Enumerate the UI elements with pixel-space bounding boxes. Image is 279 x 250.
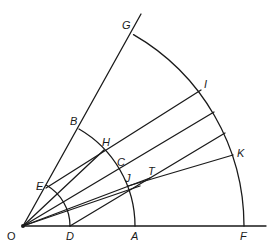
origin-point (21, 224, 25, 228)
geometry-diagram: O D A F E B G H C J T I K (0, 0, 279, 250)
arc-FG (134, 35, 245, 226)
label-T: T (148, 166, 155, 177)
label-H: H (102, 137, 110, 148)
label-A: A (131, 231, 138, 242)
diagram-canvas (0, 0, 279, 250)
label-B: B (70, 116, 77, 127)
label-G: G (122, 20, 131, 31)
label-E: E (36, 181, 43, 192)
label-K: K (237, 148, 244, 159)
label-F: F (240, 231, 247, 242)
line-OT (23, 186, 140, 226)
line-DT (70, 133, 225, 226)
label-J: J (125, 173, 131, 184)
label-D: D (66, 231, 74, 242)
label-O: O (7, 231, 16, 242)
label-C: C (117, 157, 125, 168)
label-I: I (204, 79, 207, 90)
line-EI (46, 90, 201, 188)
